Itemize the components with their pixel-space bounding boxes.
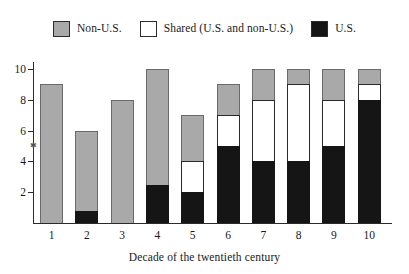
bar-segment-non-us [75, 131, 98, 212]
x-tick-label-9: 9 [319, 230, 349, 242]
bar-segment-shared [358, 84, 381, 99]
bar-segment-non-us [217, 84, 240, 115]
y-tick-label: 8 [2, 95, 26, 107]
y-tick-mark [28, 69, 33, 70]
bar-segment-non-us [358, 69, 381, 84]
x-axis-line [33, 223, 392, 224]
bar-segment-us [252, 161, 275, 223]
bar-segment-non-us [146, 69, 169, 185]
x-tick-label-10: 10 [354, 230, 384, 242]
bar-segment-us [358, 100, 381, 223]
bar-segment-shared [252, 100, 275, 162]
bar-column-6 [217, 84, 240, 223]
bar-segment-us [287, 161, 310, 223]
bar-segment-non-us [322, 69, 345, 100]
bar-column-1 [40, 84, 63, 223]
bar-column-9 [322, 69, 345, 223]
chart-axes: 246810 12345678910 [33, 62, 392, 224]
x-tick-label-3: 3 [107, 230, 137, 242]
bar-segment-non-us [287, 69, 310, 84]
y-tick-label: 10 [2, 64, 26, 76]
plot-area: 246810 12345678910 ✱ Decade of the twent… [0, 0, 409, 274]
bar-segment-non-us [40, 84, 63, 223]
x-tick-label-7: 7 [248, 230, 278, 242]
bar-segment-non-us [181, 115, 204, 161]
x-tick-label-2: 2 [72, 230, 102, 242]
bar-segment-non-us [252, 69, 275, 100]
y-tick-mark [28, 192, 33, 193]
bar-column-5 [181, 115, 204, 223]
bar-segment-us [181, 192, 204, 223]
bar-segment-shared [322, 100, 345, 146]
bar-column-3 [111, 100, 134, 223]
y-tick-label: 6 [2, 126, 26, 138]
bar-segment-shared [217, 115, 240, 146]
y-tick-mark [28, 161, 33, 162]
x-tick-label-4: 4 [142, 230, 172, 242]
stray-pencil-mark: ✱ [30, 143, 36, 148]
x-axis-title: Decade of the twentieth century [0, 252, 409, 264]
x-tick-label-6: 6 [213, 230, 243, 242]
y-tick-label: 2 [2, 187, 26, 199]
bar-column-7 [252, 69, 275, 223]
y-tick-mark [28, 131, 33, 132]
bar-segment-shared [181, 161, 204, 192]
x-tick-label-1: 1 [37, 230, 67, 242]
bar-column-4 [146, 69, 169, 223]
bar-segment-us [217, 146, 240, 223]
bar-column-8 [287, 69, 310, 223]
stacked-bar-chart-figure: Non-U.S. Shared (U.S. and non-U.S.) U.S.… [0, 0, 409, 274]
x-tick-label-5: 5 [178, 230, 208, 242]
bar-group [34, 62, 392, 223]
x-tick-label-8: 8 [284, 230, 314, 242]
bar-segment-us [146, 185, 169, 224]
bar-segment-us [322, 146, 345, 223]
bar-segment-us [75, 211, 98, 223]
bar-column-10 [358, 69, 381, 223]
y-tick-label: 4 [2, 156, 26, 168]
bar-column-2 [75, 131, 98, 223]
bar-segment-non-us [111, 100, 134, 223]
bar-segment-shared [287, 84, 310, 161]
y-tick-mark [28, 100, 33, 101]
